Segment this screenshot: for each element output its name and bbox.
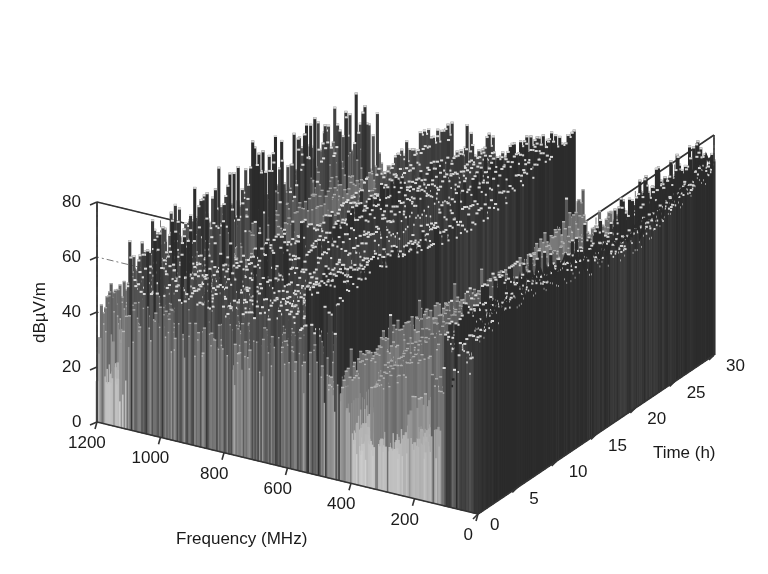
plot-canvas-3d-surface: [0, 0, 768, 574]
figure-3d-waterfall-plot: 0204060801200100080060040020000510152025…: [0, 0, 768, 574]
